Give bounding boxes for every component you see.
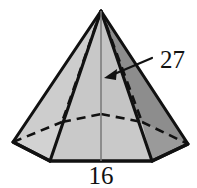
height-label: 27 — [160, 46, 185, 73]
pyramid-diagram-svg: 27 16 — [0, 0, 197, 188]
base-edge-label: 16 — [89, 162, 114, 188]
pyramid-figure: 27 16 — [0, 0, 197, 188]
